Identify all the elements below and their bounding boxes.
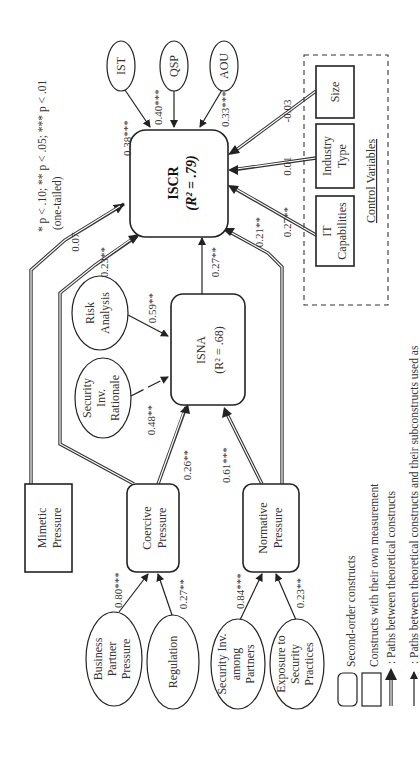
security-inv-among-partners-node: Security Inv. among Partners xyxy=(211,619,265,709)
svg-text:AOU: AOU xyxy=(217,53,231,79)
svg-text:Pressure: Pressure xyxy=(119,639,133,680)
mimetic-pressure-node: Mimetic Pressure xyxy=(25,484,72,572)
svg-text:IST: IST xyxy=(114,56,128,75)
svg-text:Normative: Normative xyxy=(256,502,270,553)
svg-text:ISCR: ISCR xyxy=(166,165,181,199)
svg-text:Type: Type xyxy=(335,144,349,168)
qsp-node: QSP xyxy=(160,41,188,91)
svg-text:Security Inv.: Security Inv. xyxy=(215,633,229,694)
svg-text:0.01: 0.01 xyxy=(281,156,293,175)
svg-text:: Paths between theoretical co: : Paths between theoretical constructs a… xyxy=(408,345,420,664)
svg-text:0.48**: 0.48** xyxy=(145,405,157,435)
ist-node: IST xyxy=(107,41,135,91)
svg-text:0.26**: 0.26** xyxy=(181,450,193,480)
svg-text:0.23**: 0.23** xyxy=(294,578,306,608)
business-partner-pressure-node: Business Partner Pressure xyxy=(86,612,142,706)
svg-text:Control Variables: Control Variables xyxy=(364,139,378,223)
svg-text:Constructs with their own meas: Constructs with their own measurement xyxy=(368,483,380,667)
svg-text:Size: Size xyxy=(328,82,342,103)
svg-text:0.27**: 0.27** xyxy=(209,247,221,277)
svg-text:Pressure: Pressure xyxy=(50,508,64,549)
research-model-diagram: ISCR (R² = .79) ISNA (R² = .68) Mimetic … xyxy=(0,0,420,757)
svg-text:0.07: 0.07 xyxy=(69,232,81,252)
svg-text:ISNA: ISNA xyxy=(194,336,208,364)
svg-text:0.27**: 0.27** xyxy=(177,579,189,609)
svg-text:Regulation: Regulation xyxy=(166,636,180,689)
svg-text:Partner: Partner xyxy=(105,642,119,677)
svg-text:0.80***: 0.80*** xyxy=(112,572,124,608)
svg-text:(one-tailed): (one-tailed) xyxy=(51,176,64,230)
normative-pressure-node: Normative Pressure xyxy=(243,484,299,572)
coercive-pressure-node: Coercive Pressure xyxy=(127,484,179,572)
regulation-node: Regulation xyxy=(147,615,199,709)
svg-text:0.33***: 0.33*** xyxy=(219,91,231,127)
svg-text:IT: IT xyxy=(320,225,334,237)
svg-text:Risk: Risk xyxy=(83,302,97,324)
svg-text:Business: Business xyxy=(91,637,105,680)
svg-text:Partners: Partners xyxy=(243,644,257,684)
svg-text:0.59**: 0.59** xyxy=(146,293,158,323)
security-inv-rationale-node: Security Inv. Rationale xyxy=(75,358,131,438)
svg-text:Practices: Practices xyxy=(302,642,316,686)
svg-text:0.61***: 0.61*** xyxy=(220,447,232,483)
legend: Second-order constructs Constructs with … xyxy=(338,345,420,706)
svg-text:0.23**: 0.23** xyxy=(98,247,110,277)
svg-text:Security: Security xyxy=(80,378,94,418)
aou-node: AOU xyxy=(210,41,238,91)
svg-text:0.21**: 0.21** xyxy=(253,217,265,247)
svg-text:Industry: Industry xyxy=(320,136,334,176)
isna-node: ISNA (R² = .68) xyxy=(171,294,245,405)
svg-text:0.84***: 0.84*** xyxy=(234,573,246,609)
svg-text:among: among xyxy=(229,648,243,681)
svg-text:(R² = .68): (R² = .68) xyxy=(212,326,226,373)
svg-text:0.38***: 0.38*** xyxy=(121,120,133,156)
legend-second-order-icon xyxy=(338,673,357,706)
legend-own-measurement-icon xyxy=(362,673,381,706)
iscr-node: ISCR (R² = .79) xyxy=(130,130,228,237)
svg-text:Security: Security xyxy=(288,644,302,684)
svg-text:Mimetic: Mimetic xyxy=(35,508,49,549)
svg-text:Second-order constructs: Second-order constructs xyxy=(345,555,357,667)
svg-text:0.40***: 0.40*** xyxy=(152,89,164,125)
svg-text:0.27**: 0.27** xyxy=(281,207,293,237)
svg-text:(R² = .79): (R² = .79) xyxy=(184,155,200,210)
svg-text:Inv.: Inv. xyxy=(94,389,108,407)
significance-note: * p < .10; ** p < .05; *** p < .01 (one-… xyxy=(36,79,64,232)
risk-analysis-node: Risk Analysis xyxy=(72,276,128,350)
svg-text:Rationale: Rationale xyxy=(108,375,122,421)
exposure-to-security-practices-node: Exposure to Security Practices xyxy=(270,619,324,709)
svg-text:-0.03: -0.03 xyxy=(281,99,293,122)
svg-text:Exposure to: Exposure to xyxy=(274,635,288,693)
svg-text:Analysis: Analysis xyxy=(98,292,112,334)
svg-text:QSP: QSP xyxy=(167,55,181,77)
svg-text:* p < .10; ** p < .05; *** p <: * p < .10; ** p < .05; *** p < .01 xyxy=(36,79,49,232)
svg-text:Pressure: Pressure xyxy=(155,508,169,549)
svg-text:Coercive: Coercive xyxy=(140,506,154,549)
svg-text:: Paths between theoretical co: : Paths between theoretical constructs xyxy=(385,490,397,664)
control-variables-group: IT Capabilities Industry Type Size Contr… xyxy=(304,55,388,305)
svg-text:Pressure: Pressure xyxy=(271,508,285,549)
svg-text:Capabilities: Capabilities xyxy=(335,202,349,260)
legend-double-arrow-icon xyxy=(385,668,397,706)
